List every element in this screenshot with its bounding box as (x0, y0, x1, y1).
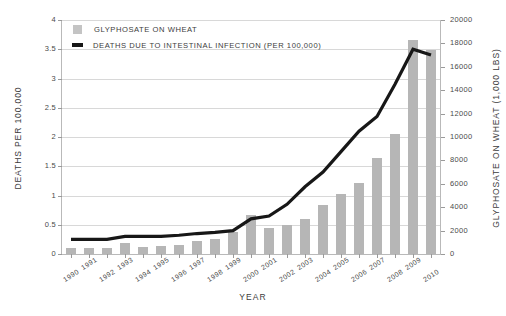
y-axis-right-tickmark (441, 184, 445, 185)
x-axis-tickmark (143, 254, 144, 258)
x-axis-tickmark (179, 254, 180, 258)
x-axis-labels: 1990199119921993199419951996199719981999… (62, 254, 440, 290)
y-axis-left-tick-label: 3.5 (16, 44, 56, 53)
y-axis-right-tickmark (441, 137, 445, 138)
dual-axis-chart: Deaths per 100,000 Glyphosate on wheat (… (0, 0, 506, 316)
x-axis-tickmark (107, 254, 108, 258)
y-axis-right-tick-label: 8000 (450, 155, 496, 164)
y-axis-left-tick-label: 3 (16, 74, 56, 83)
legend-item-deaths: Deaths due to intestinal infection (per … (73, 38, 321, 52)
y-axis-right-tick-label: 18000 (450, 38, 496, 47)
y-axis-right-tick-label: 10000 (450, 132, 496, 141)
x-axis-tickmark (359, 254, 360, 258)
x-axis-tickmark (287, 254, 288, 258)
y-axis-right-tick-label: 2000 (450, 226, 496, 235)
y-axis-left-tick-label: 2 (16, 132, 56, 141)
y-axis-left-tick-label: 4 (16, 15, 56, 24)
y-axis-right-tick-label: 4000 (450, 202, 496, 211)
y-axis-right-tick-label: 20000 (450, 15, 496, 24)
legend-item-glyphosate: Glyphosate on wheat (73, 22, 321, 36)
plot-area (62, 20, 440, 254)
y-axis-right-tick-label: 12000 (450, 109, 496, 118)
bar-swatch-icon (73, 25, 82, 34)
y-axis-right-tickmark (441, 160, 445, 161)
chart-legend: Glyphosate on wheat Deaths due to intest… (73, 22, 321, 54)
y-axis-right-tickmark (441, 231, 445, 232)
y-axis-right-tickmark (441, 90, 445, 91)
line-swatch-icon (72, 43, 83, 47)
line-series-deaths-intestinal-infection (62, 20, 440, 254)
x-axis-tickmark (71, 254, 72, 258)
y-axis-right-tickmark (441, 43, 445, 44)
y-axis-left-tick-label: 0 (16, 249, 56, 258)
y-axis-right-tick-label: 16000 (450, 62, 496, 71)
legend-item-label: Deaths due to intestinal infection (per … (93, 41, 321, 50)
y-axis-left-tick-label: 0.5 (16, 220, 56, 229)
y-axis-right-tick-label: 6000 (450, 179, 496, 188)
y-axis-right-ticks: 0200040006000800010000120001400016000180… (446, 0, 496, 316)
y-axis-right-tick-label: 14000 (450, 85, 496, 94)
y-axis-left-tick-label: 1 (16, 191, 56, 200)
x-axis-tickmark (251, 254, 252, 258)
y-axis-left-tick-label: 2.5 (16, 103, 56, 112)
y-axis-right-tickmark (441, 207, 445, 208)
legend-item-label: Glyphosate on wheat (94, 25, 197, 34)
y-axis-right-tickmark (441, 20, 445, 21)
y-axis-right-tickmark (441, 67, 445, 68)
x-axis-tickmark (215, 254, 216, 258)
x-axis-tickmark (395, 254, 396, 258)
y-axis-left-tick-label: 1.5 (16, 161, 56, 170)
x-axis-tickmark (431, 254, 432, 258)
y-axis-right-tickmark (441, 254, 445, 255)
x-axis-tick-label: 2010 (416, 265, 445, 287)
y-axis-left-ticks: 00.511.522.533.54 (12, 0, 56, 316)
y-axis-right-tickmark (441, 114, 445, 115)
x-axis-title: Year (0, 292, 506, 302)
x-axis-tickmark (323, 254, 324, 258)
line-path (71, 49, 431, 239)
y-axis-right-tick-label: 0 (450, 249, 496, 258)
